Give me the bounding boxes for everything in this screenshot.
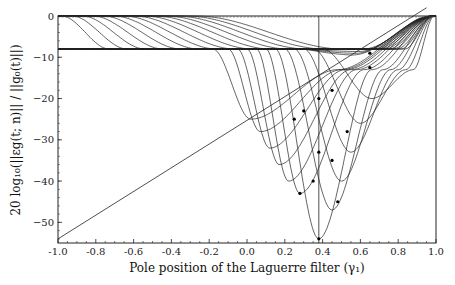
x-tick-label: -0.6	[124, 246, 143, 257]
x-tick-label: 0.0	[239, 246, 255, 257]
upper-curve	[58, 16, 436, 49]
x-tick-label: 0.4	[315, 246, 331, 257]
y-tick-label: 0	[48, 11, 54, 22]
upper-curve	[58, 16, 436, 49]
minimum-marker	[302, 109, 305, 112]
upper-curve	[58, 16, 436, 49]
y-tick-label: −50	[33, 217, 54, 228]
x-tick-label: -0.2	[200, 246, 219, 257]
minimum-marker	[317, 237, 320, 240]
y-tick-label: −30	[33, 134, 54, 145]
x-axis-label: Pole position of the Laguerre filter (γ₁…	[129, 261, 365, 275]
lower-curve	[58, 16, 436, 239]
x-tick-label: 1.0	[428, 246, 444, 257]
upper-curve	[58, 16, 436, 49]
minimum-marker	[330, 89, 333, 92]
minimum-marker	[317, 151, 320, 154]
x-tick-label: 0.2	[277, 246, 293, 257]
x-tick-label: -1.0	[48, 246, 67, 257]
upper-curve	[58, 16, 436, 49]
upper-curve	[58, 16, 436, 49]
diagonal-reference-line	[58, 8, 427, 239]
minimum-marker	[368, 52, 371, 55]
y-axis-label: 20 log₁₀(||εg(t; n)|| / ||g₀(t)||)	[9, 44, 23, 215]
x-tick-label: 0.8	[390, 246, 406, 257]
minimum-marker	[298, 192, 301, 195]
upper-curve	[58, 16, 436, 49]
upper-curve	[58, 16, 436, 49]
minimum-marker	[312, 179, 315, 182]
minimum-marker	[317, 97, 320, 100]
minimum-marker	[330, 159, 333, 162]
lower-curve	[58, 16, 436, 193]
upper-curve	[58, 16, 436, 49]
upper-curve	[58, 16, 436, 49]
minimum-marker	[336, 200, 339, 203]
minimum-marker	[346, 130, 349, 133]
lower-curve	[58, 16, 436, 99]
y-tick-label: −20	[33, 93, 54, 104]
lower-curve	[58, 16, 436, 165]
y-tick-label: −10	[33, 52, 54, 63]
lower-curve	[58, 16, 436, 148]
x-tick-label: -0.4	[162, 246, 181, 257]
minimum-marker	[293, 118, 296, 121]
minimum-marker	[368, 66, 371, 69]
y-tick-label: −40	[33, 176, 54, 187]
x-tick-label: -0.8	[86, 246, 105, 257]
x-tick-label: 0.6	[352, 246, 368, 257]
upper-curve	[58, 16, 436, 49]
chart: -1.0-0.8-0.6-0.4-0.20.00.20.40.60.81.00−…	[0, 0, 455, 285]
plot-area	[58, 16, 436, 239]
